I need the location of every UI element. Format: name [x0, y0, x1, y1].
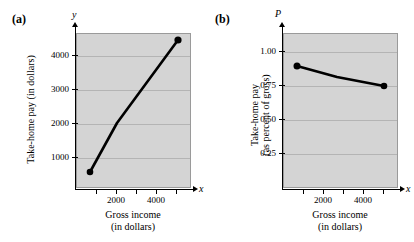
data-line-a [90, 40, 178, 172]
series-b [207, 0, 414, 242]
data-point-end-a [174, 36, 181, 43]
data-point-end-b [381, 83, 388, 90]
figure-b: (b) P x 1.00 0.75 0.50 0.25 2000 4000 Ta… [207, 0, 414, 242]
data-line-b [297, 66, 384, 86]
data-point-start-a [87, 169, 94, 176]
data-point-start-b [294, 63, 301, 70]
figure-a: (a) y x 4000 3000 2000 1000 2000 4000 Ta… [0, 0, 207, 242]
series-a [0, 0, 207, 242]
